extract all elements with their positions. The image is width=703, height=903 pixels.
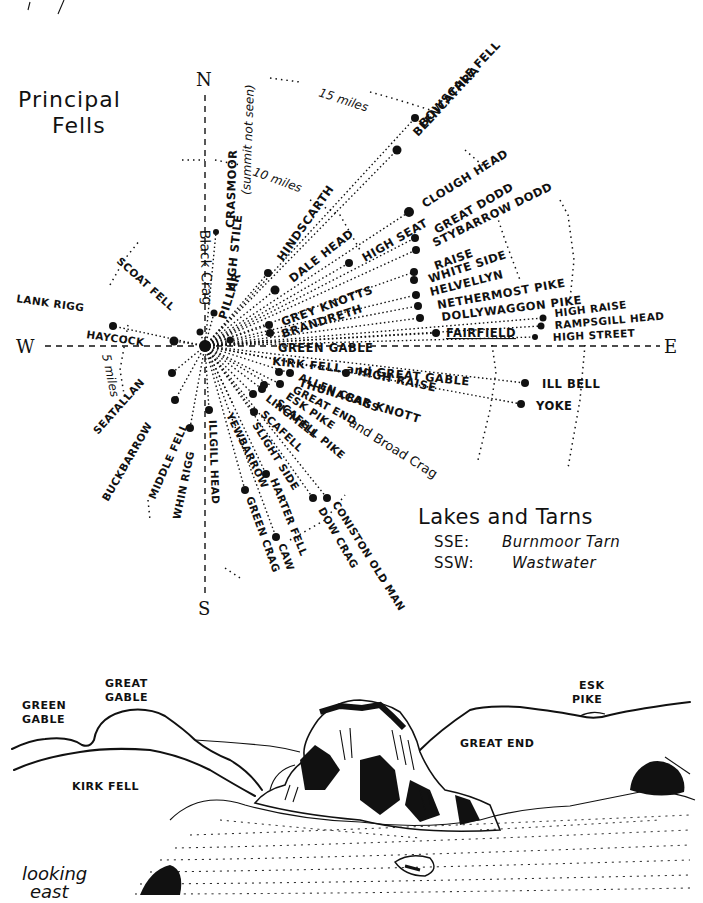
dot-high-raise-e — [540, 315, 547, 322]
landscape-sketch: GREEN GABLE GREAT GABLE KIRK FELL ESK PI… — [12, 677, 695, 902]
label-scoat-fell: SCOAT FELL — [115, 255, 178, 313]
label-illgill-head: ILLGILL HEAD — [207, 420, 222, 505]
label-yewbarrow: YEWBARROW — [224, 410, 272, 491]
dot-raise — [410, 268, 418, 276]
dot-high-street — [532, 334, 538, 340]
fells-diagram: Principal Fells N S E W 15 miles 10 mile… — [0, 0, 703, 903]
foreground-shrub — [140, 865, 181, 895]
title-line-1: Principal — [18, 87, 121, 112]
sketch-caption-line-2: east — [30, 881, 69, 902]
ring-label-5-miles: 5 miles — [99, 353, 122, 398]
dot-coniston-old-man — [323, 494, 331, 502]
dot-illgill-head — [205, 406, 213, 414]
sketch-label-green-gable-2: GABLE — [22, 713, 65, 726]
sketch-label-esk-pike-1: ESK — [579, 679, 604, 692]
compass-north: N — [196, 69, 212, 90]
lakes-and-tarns: Lakes and Tarns SSE: Burnmoor Tarn SSW: … — [418, 505, 620, 572]
dot-yoke — [517, 400, 525, 408]
dot-blencathra — [393, 146, 402, 155]
boulder-right — [630, 761, 684, 796]
sketch-label-esk-pike-2: PIKE — [572, 693, 602, 706]
label-green-gable: GREEN GABLE — [278, 341, 373, 355]
compass-east: E — [664, 336, 677, 357]
dot-dollywaggon-pike — [416, 314, 424, 322]
label-high-seat: HIGH SEAT — [360, 216, 431, 265]
dot-lingmell — [249, 390, 257, 398]
label-black-crag: Black Crag — [197, 230, 216, 306]
lake-name-wastwater: Wastwater — [512, 554, 596, 572]
lake-name-burnmoor-tarn: Burnmoor Tarn — [502, 533, 620, 551]
dot-great-end — [276, 380, 284, 388]
dot-stybarrow-dodd — [412, 246, 420, 254]
dot-scafell-pike — [260, 381, 268, 389]
label-blencathra: BLENCATHRA — [410, 63, 482, 139]
dot-rampsgill-head — [538, 323, 545, 330]
sketch-label-kirk-fell: KIRK FELL — [72, 780, 139, 793]
dot-fairfield — [432, 329, 440, 337]
dot-haycock — [170, 337, 179, 346]
dot-high-seat — [345, 259, 353, 267]
dot-middle-fell — [171, 396, 179, 404]
title-line-2: Fells — [52, 113, 106, 138]
dot-nethermost-pike — [414, 302, 422, 310]
viewpoint-dot — [199, 340, 211, 352]
ring-label-15-miles: 15 miles — [317, 86, 370, 115]
ring-label-10-miles: 10 miles — [251, 165, 304, 196]
dot-allen-crags — [275, 368, 283, 376]
label-pillar: PILLAR — [216, 271, 244, 321]
dot-dale-head — [271, 286, 280, 295]
dot-lank-rigg — [109, 322, 117, 330]
lake-direction-sse: SSE: — [434, 533, 470, 551]
dot-hindscarth — [264, 269, 272, 277]
dot-scoat-fell — [197, 329, 204, 336]
dot-caw — [272, 533, 280, 541]
dot-pillar — [227, 337, 234, 344]
dot-green-crag — [241, 486, 249, 494]
label-fairfield: FAIRFIELD — [446, 326, 516, 340]
dot-ill-bell — [521, 379, 529, 387]
dot-helvellyn — [412, 291, 420, 299]
dot-grey-knotts — [265, 321, 273, 329]
sketch-label-great-gable-1: GREAT — [105, 677, 148, 690]
label-lank-rigg: LANK RIGG — [16, 292, 85, 313]
dot-brandreth — [266, 329, 274, 337]
summit-crag — [255, 700, 500, 831]
stray-marks — [28, 0, 64, 14]
foreground-rock — [395, 856, 434, 876]
dot-scafell — [250, 408, 258, 416]
label-broad-crag: and Broad Crag — [346, 415, 440, 482]
sketch-label-great-end: GREAT END — [460, 737, 534, 750]
dot-seatallan — [168, 369, 176, 377]
lakes-title: Lakes and Tarns — [418, 505, 593, 529]
sketch-label-great-gable-2: GABLE — [105, 691, 148, 704]
lake-direction-ssw: SSW: — [434, 554, 474, 572]
sketch-label-green-gable-1: GREEN — [22, 699, 66, 712]
compass-south: S — [198, 598, 210, 619]
compass-west: W — [16, 336, 35, 357]
dot-clough-head — [404, 207, 414, 217]
dot-dow-crag — [309, 494, 317, 502]
dot-white-side — [410, 276, 418, 284]
label-coniston-old-man: CONISTON OLD MAN — [330, 499, 408, 613]
esk-pike-bump — [580, 712, 605, 716]
label-ill-bell: ILL BELL — [542, 377, 600, 391]
label-yoke: YOKE — [535, 399, 572, 413]
label-buckbarrow: BUCKBARROW — [99, 420, 154, 503]
